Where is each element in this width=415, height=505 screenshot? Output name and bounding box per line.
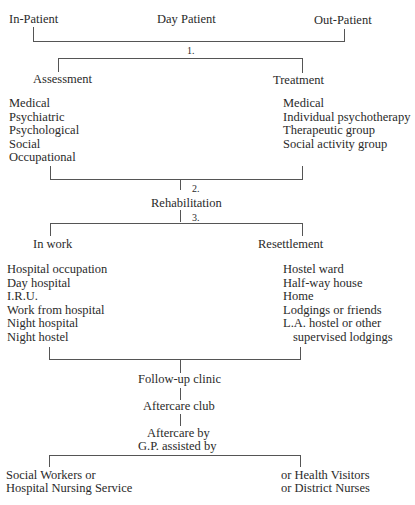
resettlement-title: Resettlement xyxy=(258,237,323,251)
followup-clinic-label: Follow-up clinic xyxy=(138,372,221,386)
resettlement-item: Half-way house xyxy=(283,277,393,291)
in-patient-label: In-Patient xyxy=(9,12,58,26)
in-work-item: Night hospital xyxy=(7,317,107,331)
step-2-label: 2. xyxy=(192,184,200,194)
assessment-item: Medical xyxy=(9,97,79,111)
resettlement-item: Lodgings or friends xyxy=(283,304,393,318)
out-patient-label: Out-Patient xyxy=(314,13,372,27)
in-work-item: Hospital occupation xyxy=(7,263,107,277)
connector-in-work-down xyxy=(49,347,50,359)
health-visitors-label: or Health Visitors xyxy=(281,468,370,482)
hospital-nursing-label: Hospital Nursing Service xyxy=(6,481,132,495)
step-1-label: 1. xyxy=(187,46,195,56)
connector-stage1-bottom-bar xyxy=(50,179,303,180)
in-work-item: I.R.U. xyxy=(7,290,107,304)
gp-assisted-by-label: G.P. assisted by xyxy=(138,439,216,453)
connector-resettlement xyxy=(302,223,303,236)
district-nurses-label: or District Nurses xyxy=(281,481,370,495)
in-work-title: In work xyxy=(33,237,72,251)
connector-from-rehabilitation xyxy=(180,210,181,222)
connector-in-work xyxy=(50,223,51,236)
assessment-item: Occupational xyxy=(9,151,79,165)
connector-health-visitors xyxy=(300,455,301,467)
step-3-label: 3. xyxy=(192,213,200,223)
connector-to-aftercare-gp xyxy=(180,414,181,426)
treatment-list: Medical Individual psychotherapy Therape… xyxy=(283,97,410,151)
in-work-item: Work from hospital xyxy=(7,304,107,318)
connector-top-bar xyxy=(33,41,345,42)
social-workers-label: Social Workers or xyxy=(6,468,96,482)
resettlement-item: Hostel ward xyxy=(283,263,393,277)
connector-stage3-bottom-bar xyxy=(49,359,301,360)
connector-assessment xyxy=(58,58,59,72)
assessment-item: Psychiatric xyxy=(9,111,79,125)
connector-resettlement-down xyxy=(300,347,301,359)
resettlement-item: L.A. hostel or other xyxy=(283,317,393,331)
connector-social-workers xyxy=(49,455,50,467)
connector-bottom-bar xyxy=(49,455,301,456)
in-work-item: Night hostel xyxy=(7,331,107,345)
day-patient-label: Day Patient xyxy=(157,12,216,26)
connector-treatment xyxy=(302,58,303,73)
in-work-list: Hospital occupation Day hospital I.R.U. … xyxy=(7,263,107,345)
treatment-item: Medical xyxy=(283,97,410,111)
connector-in-patient xyxy=(33,27,34,41)
in-work-item: Day hospital xyxy=(7,277,107,291)
treatment-title: Treatment xyxy=(273,73,324,87)
treatment-item: Social activity group xyxy=(283,138,410,152)
connector-treatment-down xyxy=(302,166,303,179)
resettlement-item: Home xyxy=(283,290,393,304)
connector-to-rehabilitation xyxy=(180,180,181,190)
resettlement-item: supervised lodgings xyxy=(283,331,393,345)
connector-stage1-bar xyxy=(58,58,302,59)
assessment-item: Psychological xyxy=(9,124,79,138)
assessment-list: Medical Psychiatric Psychological Social… xyxy=(9,97,79,165)
connector-out-patient xyxy=(344,29,345,41)
assessment-item: Social xyxy=(9,138,79,152)
aftercare-by-label: Aftercare by xyxy=(147,426,210,440)
aftercare-club-label: Aftercare club xyxy=(143,399,215,413)
connector-assessment-down xyxy=(50,166,51,179)
resettlement-list: Hostel ward Half-way house Home Lodgings… xyxy=(283,263,393,345)
connector-stage3-bar xyxy=(50,223,303,224)
treatment-item: Therapeutic group xyxy=(283,124,410,138)
rehabilitation-label: Rehabilitation xyxy=(151,196,222,210)
assessment-title: Assessment xyxy=(33,72,92,86)
treatment-item: Individual psychotherapy xyxy=(283,111,410,125)
